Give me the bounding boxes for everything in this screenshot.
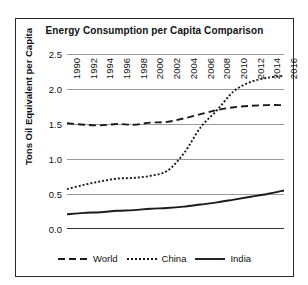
chart-legend: WorldChinaIndia [16, 253, 293, 264]
chart-title: Energy Consumption per Capita Comparison [16, 25, 293, 36]
legend-swatch-dotted [127, 255, 157, 263]
y-axis-tick-label: 2.5 [49, 49, 62, 60]
y-axis-tick-label: 0.0 [49, 224, 62, 235]
y-axis-label: Tons Oil Equivalent per Capita [23, 17, 34, 177]
legend-swatch-dashed [58, 255, 88, 263]
series-layer [67, 54, 284, 229]
x-axis-tick-label: 2002 [171, 58, 182, 79]
x-axis-tick-label: 2008 [221, 58, 232, 79]
x-axis-tick-label: 2010 [238, 58, 249, 79]
legend-item-china[interactable]: China [127, 253, 187, 264]
chart-frame: Energy Consumption per Capita Comparison… [15, 18, 294, 277]
x-axis-tick-label: 2014 [271, 58, 282, 79]
legend-item-world[interactable]: World [58, 253, 118, 264]
legend-swatch-solid [195, 255, 225, 263]
plot-area: 0.00.51.01.52.02.5 199019921994199619982… [67, 54, 284, 229]
x-axis-tick-label: 1998 [138, 58, 149, 79]
x-axis-tick-label: 2006 [205, 58, 216, 79]
x-axis-tick-label: 2012 [255, 58, 266, 79]
y-axis-tick-label: 1.0 [49, 154, 62, 165]
x-axis-tick-label: 1996 [121, 58, 132, 79]
x-axis-line [67, 228, 284, 229]
series-line-india [67, 191, 284, 215]
series-line-world [67, 105, 284, 125]
y-axis-tick-label: 0.5 [49, 189, 62, 200]
legend-label: China [162, 253, 187, 264]
x-axis-tick-label: 1994 [104, 58, 115, 79]
series-line-china [67, 76, 284, 189]
legend-label: World [93, 253, 118, 264]
y-axis-tick-label: 1.5 [49, 119, 62, 130]
y-axis-tick-label: 2.0 [49, 84, 62, 95]
x-axis-tick-label: 2016 [288, 58, 299, 79]
x-axis-tick-label: 2004 [188, 58, 199, 79]
x-axis-tick-label: 1990 [71, 58, 82, 79]
x-axis-tick-label: 1992 [88, 58, 99, 79]
legend-label: India [230, 253, 251, 264]
legend-item-india[interactable]: India [195, 253, 251, 264]
x-axis-tick-label: 2000 [154, 58, 165, 79]
